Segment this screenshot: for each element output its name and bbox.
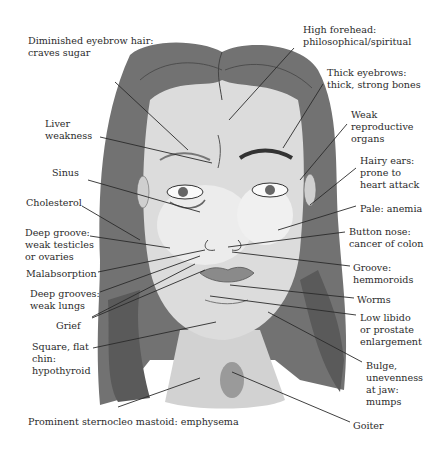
label-liver-weakness: Liver weakness xyxy=(45,118,92,142)
label-cholesterol: Cholesterol xyxy=(26,197,82,209)
iris-left xyxy=(178,187,188,197)
label-deep-groove-testicles: Deep groove: weak testicles or ovaries xyxy=(25,227,94,263)
goiter-bulge xyxy=(220,362,244,398)
label-hairy-ears: Hairy ears: prone to heart attack xyxy=(360,155,419,191)
label-diminished-eyebrow: Diminished eyebrow hair: craves sugar xyxy=(28,35,153,59)
label-weak-reproductive: Weak reproductive organs xyxy=(351,109,413,145)
label-deep-grooves-lungs: Deep grooves: weak lungs xyxy=(30,288,100,312)
label-low-libido: Low libido or prostate enlargement xyxy=(360,312,422,348)
label-bulge-jaw: Bulge, unevenness at jaw: mumps xyxy=(366,360,423,408)
label-worms: Worms xyxy=(357,294,391,306)
label-groove-hemmoroids: Groove: hemmoroids xyxy=(353,262,413,286)
label-sternocleo: Prominent sternocleo mastoid: emphysema xyxy=(28,416,239,428)
label-thick-eyebrows: Thick eyebrows: thick, strong bones xyxy=(327,67,421,91)
label-malabsorption: Malabsorption xyxy=(26,268,97,280)
label-pale: Pale: anemia xyxy=(360,203,422,215)
label-sinus: Sinus xyxy=(52,167,79,179)
label-high-forehead: High forehead: philosophical/spiritual xyxy=(303,24,411,48)
label-square-chin: Square, flat chin: hypothyroid xyxy=(32,341,91,377)
label-grief: Grief xyxy=(56,320,81,332)
label-button-nose: Button nose: cancer of colon xyxy=(349,226,424,250)
iris-right xyxy=(265,185,275,195)
label-goiter: Goiter xyxy=(353,420,384,432)
ear-left xyxy=(137,176,149,208)
